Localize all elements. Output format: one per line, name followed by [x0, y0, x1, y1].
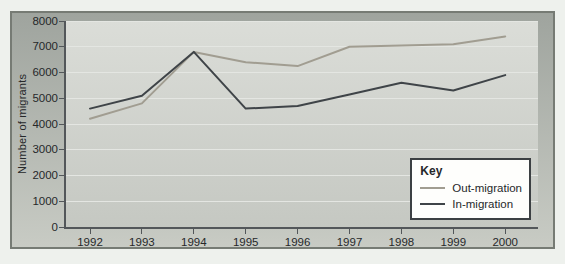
- y-tick-label-8000: 8000: [14, 15, 58, 28]
- y-tick-mark-2000: [59, 175, 64, 176]
- plot-area: Key Out-migrationIn-migration: [64, 21, 538, 229]
- y-tick-mark-8000: [59, 21, 64, 22]
- x-tick-mark-1995: [245, 229, 246, 234]
- y-tick-label-3000: 3000: [14, 143, 58, 156]
- x-tick-label-1998: 1998: [378, 236, 424, 249]
- x-tick-label-1999: 1999: [430, 236, 476, 249]
- y-tick-mark-4000: [59, 124, 64, 125]
- y-tick-label-5000: 5000: [14, 92, 58, 105]
- legend-item-in-migration: In-migration: [420, 196, 522, 212]
- x-tick-label-1993: 1993: [119, 236, 165, 249]
- y-tick-mark-1000: [59, 201, 64, 202]
- y-tick-mark-7000: [59, 46, 64, 47]
- x-tick-mark-1993: [141, 229, 142, 234]
- y-tick-mark-0: [59, 227, 64, 228]
- legend: Key Out-migrationIn-migration: [410, 158, 531, 220]
- legend-label-out-migration: Out-migration: [452, 182, 522, 194]
- x-tick-mark-1997: [349, 229, 350, 234]
- y-tick-label-0: 0: [14, 221, 58, 234]
- x-tick-label-1992: 1992: [67, 236, 113, 249]
- legend-label-in-migration: In-migration: [452, 198, 513, 210]
- y-tick-mark-3000: [59, 149, 64, 150]
- x-tick-label-1997: 1997: [327, 236, 373, 249]
- y-tick-label-2000: 2000: [14, 169, 58, 182]
- x-tick-mark-1998: [401, 229, 402, 234]
- x-tick-label-2000: 2000: [482, 236, 528, 249]
- x-tick-label-1996: 1996: [275, 236, 321, 249]
- y-tick-label-4000: 4000: [14, 118, 58, 131]
- y-tick-mark-6000: [59, 72, 64, 73]
- x-tick-mark-1994: [193, 229, 194, 234]
- legend-item-out-migration: Out-migration: [420, 180, 522, 196]
- x-tick-label-1995: 1995: [223, 236, 269, 249]
- y-tick-label-7000: 7000: [14, 40, 58, 53]
- page-background: { "chart_data": { "type": "line", "title…: [0, 0, 565, 264]
- y-tick-label-6000: 6000: [14, 66, 58, 79]
- legend-title: Key: [420, 164, 522, 178]
- x-tick-mark-1999: [453, 229, 454, 234]
- line-in-migration: [90, 52, 505, 109]
- x-tick-mark-1992: [90, 229, 91, 234]
- y-tick-label-1000: 1000: [14, 195, 58, 208]
- x-tick-mark-2000: [505, 229, 506, 234]
- x-tick-label-1994: 1994: [171, 236, 217, 249]
- x-tick-mark-1996: [297, 229, 298, 234]
- chart-frame: Number of migrants Key Out-migrationIn-m…: [10, 11, 555, 249]
- legend-line-icon-in-migration: [420, 203, 445, 205]
- legend-line-icon-out-migration: [420, 187, 445, 189]
- y-tick-mark-5000: [59, 98, 64, 99]
